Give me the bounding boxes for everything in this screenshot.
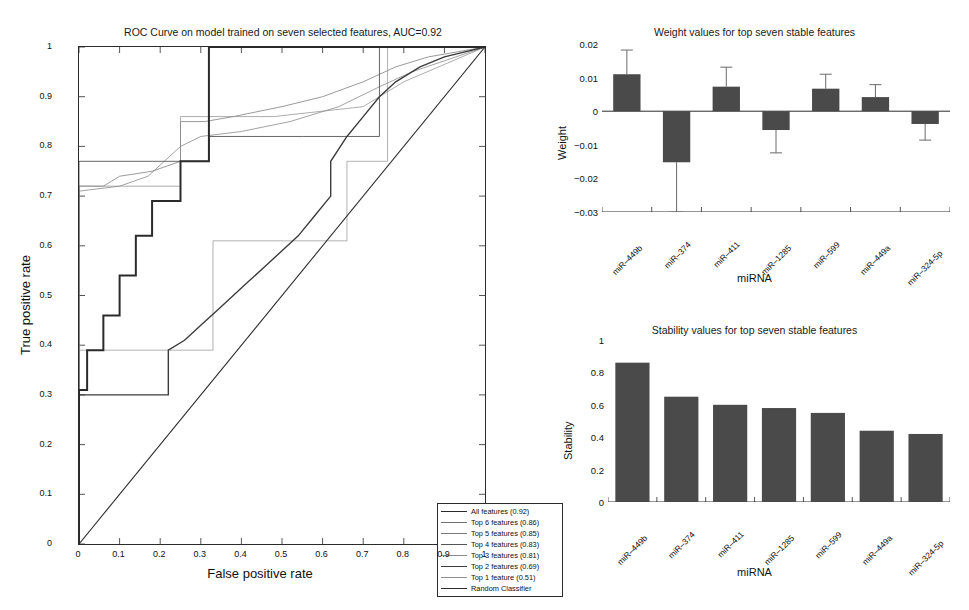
stability-y-tick: 0	[599, 497, 604, 508]
stability-category-label: miR–449a	[860, 533, 894, 567]
roc-curves	[79, 47, 485, 544]
roc-y-tick: 1	[47, 41, 52, 51]
legend-label: All features (0.92)	[471, 507, 529, 516]
roc-x-tick: 0.1	[112, 549, 125, 559]
roc-y-tick: 0.3	[39, 389, 52, 399]
weight-x-axis-label: miRNA	[540, 272, 969, 284]
roc-x-tick: 0.9	[437, 549, 450, 559]
weight-category-label: miR–599	[811, 240, 842, 271]
roc-y-tick: 0	[47, 538, 52, 548]
roc-x-tick: 0.4	[234, 549, 247, 559]
stability-category-label: miR–1285	[762, 533, 796, 567]
stability-y-tick: 0.4	[591, 432, 604, 443]
roc-y-tick: 0.9	[39, 91, 52, 101]
roc-x-tick: 0.6	[315, 549, 328, 559]
roc-y-tick: 0.6	[39, 240, 52, 250]
roc-y-tick-labels: 00.10.20.30.40.50.60.70.80.91	[0, 0, 78, 610]
roc-y-tick: 0.4	[39, 339, 52, 349]
weight-category-label: miR–374	[662, 240, 693, 271]
stability-plot-area	[608, 340, 950, 502]
roc-chart-title: ROC Curve on model trained on seven sele…	[68, 26, 498, 38]
weight-y-tick: −0.01	[574, 139, 598, 150]
stability-category-label: miR–599	[813, 530, 844, 561]
weight-y-tick: −0.02	[574, 173, 598, 184]
stability-chart-title: Stability values for top seven stable fe…	[540, 324, 969, 336]
legend-swatch	[441, 511, 467, 512]
roc-x-axis-label: False positive rate	[0, 566, 520, 581]
roc-curve-figure: ROC Curve on model trained on seven sele…	[0, 0, 520, 610]
stability-category-label: miR–374	[666, 530, 697, 561]
roc-y-tick: 0.1	[39, 488, 52, 498]
legend-label: Top 5 features (0.85)	[471, 529, 539, 538]
legend-label: Random Classifier	[471, 584, 531, 593]
roc-x-tick: 0	[75, 549, 80, 559]
stability-y-tick: 0.8	[591, 367, 604, 378]
stability-bars	[608, 340, 950, 502]
stability-y-tick: 0.2	[591, 464, 604, 475]
weight-plot-area	[602, 44, 950, 212]
roc-x-tick: 0.7	[356, 549, 369, 559]
roc-y-tick: 0.7	[39, 190, 52, 200]
roc-x-tick: 0.5	[275, 549, 288, 559]
roc-x-tick: 1	[481, 549, 486, 559]
legend-swatch	[441, 588, 467, 589]
stability-x-axis-label: miRNA	[540, 566, 969, 578]
weight-y-tick: −0.03	[574, 207, 598, 218]
weight-bar-figure: Weight values for top seven stable featu…	[540, 0, 969, 300]
roc-y-tick: 0.5	[39, 290, 52, 300]
weight-bars	[602, 44, 950, 212]
weight-y-tick: 0.02	[580, 39, 599, 50]
roc-x-tick: 0.8	[397, 549, 410, 559]
legend-swatch	[441, 544, 467, 545]
legend-swatch	[441, 533, 467, 534]
stability-category-label: miR–411	[715, 529, 745, 559]
weight-chart-title: Weight values for top seven stable featu…	[540, 26, 969, 38]
roc-x-tick: 0.2	[153, 549, 166, 559]
roc-x-tick: 0.3	[194, 549, 207, 559]
roc-y-tick: 0.8	[39, 140, 52, 150]
weight-y-tick: 0	[593, 106, 598, 117]
weight-category-label: miR–411	[712, 239, 742, 269]
stability-bar-figure: Stability values for top seven stable fe…	[540, 300, 969, 610]
stability-y-axis-label: Stability	[562, 421, 574, 460]
stability-category-label: miR–449b	[616, 533, 650, 567]
legend-swatch	[441, 522, 467, 523]
weight-y-tick: 0.01	[580, 72, 599, 83]
legend-label: Top 6 features (0.86)	[471, 518, 539, 527]
roc-y-tick: 0.2	[39, 439, 52, 449]
legend-label: Top 4 features (0.83)	[471, 540, 539, 549]
stability-y-tick: 0.6	[591, 399, 604, 410]
stability-y-tick: 1	[599, 335, 604, 346]
weight-y-axis-label: Weight	[556, 126, 568, 160]
roc-plot-area: All features (0.92)Top 6 features (0.86)…	[78, 46, 486, 545]
